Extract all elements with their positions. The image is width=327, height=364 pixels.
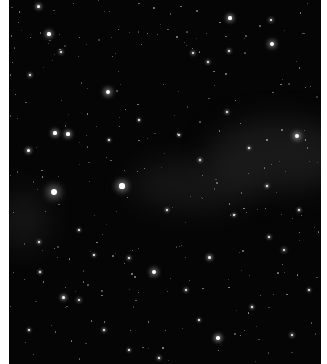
- faint-star: [179, 246, 180, 247]
- faint-star: [303, 33, 304, 34]
- faint-star: [170, 278, 171, 279]
- star: [62, 296, 65, 299]
- faint-star: [305, 87, 306, 88]
- faint-star: [94, 215, 95, 216]
- faint-star: [129, 32, 130, 33]
- faint-star: [178, 91, 179, 92]
- faint-star: [164, 153, 165, 154]
- faint-star: [89, 181, 90, 182]
- faint-star: [17, 118, 18, 119]
- faint-star: [138, 31, 140, 33]
- faint-star: [104, 11, 105, 12]
- faint-star: [21, 30, 22, 31]
- faint-star: [112, 255, 114, 257]
- faint-star: [299, 240, 300, 241]
- faint-star: [58, 176, 59, 177]
- starfield-photo: Night sky starfield with faint Milky Way…: [9, 0, 321, 364]
- star: [106, 90, 110, 94]
- faint-star: [257, 209, 258, 210]
- faint-star: [41, 170, 42, 171]
- faint-star: [240, 123, 241, 124]
- faint-star: [125, 109, 126, 110]
- faint-star: [116, 211, 117, 212]
- faint-star: [264, 167, 265, 168]
- star: [192, 52, 195, 55]
- faint-star: [281, 129, 283, 131]
- faint-star: [174, 115, 175, 116]
- faint-star: [297, 274, 298, 275]
- faint-star: [316, 277, 318, 279]
- star: [291, 334, 294, 337]
- faint-star: [282, 79, 283, 80]
- faint-star: [83, 281, 84, 282]
- faint-star: [268, 352, 270, 354]
- faint-star: [288, 83, 290, 85]
- faint-star: [130, 330, 131, 331]
- faint-star: [33, 354, 34, 355]
- star: [198, 319, 200, 321]
- star: [37, 5, 40, 8]
- faint-star: [300, 12, 302, 14]
- faint-star: [54, 54, 55, 55]
- star: [128, 257, 130, 259]
- faint-star: [17, 171, 19, 173]
- faint-star: [132, 250, 133, 251]
- faint-star: [131, 273, 132, 274]
- faint-star: [157, 34, 158, 35]
- faint-star: [168, 29, 169, 30]
- faint-star: [218, 350, 219, 351]
- faint-star: [59, 34, 60, 35]
- star: [178, 134, 180, 136]
- star: [228, 50, 230, 52]
- faint-star: [135, 300, 137, 302]
- faint-star: [11, 35, 13, 37]
- faint-star: [310, 86, 311, 87]
- faint-star: [318, 231, 319, 232]
- star: [298, 209, 300, 211]
- faint-star: [301, 215, 302, 216]
- faint-star: [206, 33, 207, 34]
- faint-star: [118, 29, 119, 30]
- faint-star: [272, 92, 273, 93]
- faint-star: [161, 167, 162, 168]
- faint-star: [187, 106, 189, 108]
- faint-star: [59, 49, 61, 51]
- faint-star: [214, 85, 215, 86]
- faint-star: [244, 38, 245, 39]
- star: [270, 42, 274, 46]
- faint-star: [219, 22, 221, 24]
- star: [152, 270, 156, 274]
- faint-star: [109, 11, 111, 13]
- faint-star: [266, 139, 268, 141]
- faint-star: [138, 248, 139, 249]
- faint-star: [120, 84, 121, 85]
- faint-star: [307, 3, 308, 4]
- faint-star: [54, 248, 55, 249]
- faint-star: [228, 287, 229, 288]
- faint-star: [87, 284, 88, 285]
- faint-star: [42, 250, 43, 251]
- star: [93, 254, 95, 256]
- star: [119, 183, 124, 188]
- faint-star: [249, 275, 250, 276]
- faint-star: [85, 343, 87, 345]
- star: [27, 149, 30, 152]
- faint-star: [96, 126, 97, 127]
- faint-star: [52, 60, 54, 62]
- faint-star: [228, 279, 229, 280]
- faint-star: [279, 161, 280, 162]
- faint-star: [246, 212, 247, 213]
- faint-star: [87, 146, 88, 147]
- star: [51, 189, 57, 195]
- faint-star: [10, 175, 11, 176]
- star: [216, 336, 220, 340]
- faint-star: [291, 352, 292, 353]
- nebula-glow: [129, 160, 259, 210]
- faint-star: [214, 188, 215, 189]
- faint-star: [282, 264, 283, 265]
- faint-star: [176, 246, 177, 247]
- faint-star: [240, 335, 242, 337]
- faint-star: [185, 222, 186, 223]
- faint-star: [12, 62, 13, 63]
- star: [283, 249, 286, 252]
